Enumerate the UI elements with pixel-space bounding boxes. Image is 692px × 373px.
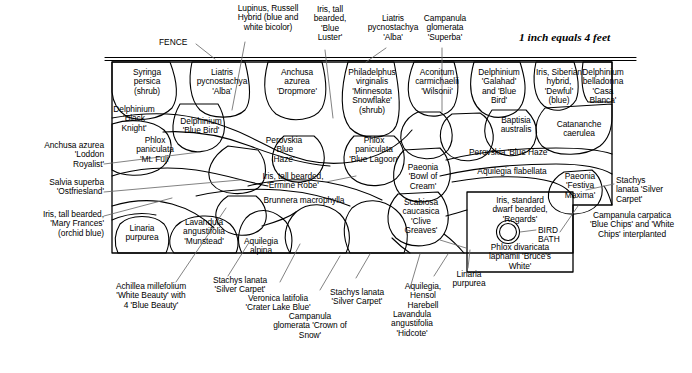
bed-label-perovskia-blue-haze-2: Perovskia 'Blue Haze'	[446, 148, 572, 157]
scale-note: 1 inch equals 4 feet	[519, 31, 610, 43]
bed-label-iris-ermine-robe: Iris, tall bearded, 'Ermine Robe'	[236, 172, 350, 191]
bird-bath-inner-circle	[500, 224, 517, 241]
callout-iris-blue-luster: Iris, tall bearded, 'Blue Luster'	[303, 5, 357, 43]
bed-label-phlox-blue-lagoon: Phlox paniculata 'Blue Lagoon'	[336, 136, 412, 164]
bed-label-liatris-alba: Liatris pycnostachya 'Alba'	[186, 68, 258, 96]
bed-label-catananche: Catananche caerulea	[543, 120, 615, 139]
leader-fence	[196, 44, 215, 59]
callout-lavandula-hidcote: Lavandula angustifolia 'Hidcote'	[376, 310, 448, 338]
bed-label-aquilegia-alpina: Aquilegia alpina	[232, 237, 290, 256]
cell-brunnera-lower1	[285, 205, 349, 253]
leader-liatris-top	[366, 48, 386, 62]
bed-label-philadelphus: Philadelphus virginalis 'Minnesota Snowf…	[336, 68, 408, 115]
bed-label-delphinium-casa-blanca: Delphinium belladonna 'Casa Blanca'	[572, 68, 634, 106]
callout-salvia-ostfriesland: Salvia superba 'Ostfriesland'	[0, 178, 104, 197]
bed-label-aconitum: Aconitum carmichaelii 'Wilsonii'	[404, 68, 470, 96]
callout-stachys-silver-carpet-right: Stachys lanata 'Silver Carpet'	[616, 176, 692, 204]
leader-campanula-crown	[320, 256, 340, 290]
callout-iris-mary-frances: Iris, tall bearded, 'Mary Frances' (orch…	[0, 210, 104, 238]
bed-label-anchusa-dropmore: Anchusa azurea 'Dropmore'	[262, 68, 332, 96]
bed-label-baptisia: Baptisia australis	[488, 116, 544, 135]
leader-bird-bath	[520, 230, 536, 232]
leader-stachys-b2	[356, 254, 370, 278]
callout-anchusa-loddon: Anchusa azurea 'Loddon Royalist'	[0, 141, 104, 169]
bed-label-delphinium-black-knight: Delphinium 'Black Knight'	[96, 105, 172, 133]
callout-campanula-crown: Campanula glomerata 'Crown of Snow'	[250, 312, 370, 340]
callout-achillea: Achillea millefolium 'White Beauty' with…	[95, 282, 207, 310]
bed-label-scabiosa: Scabiosa caucasica 'Clive Greaves'	[390, 198, 452, 236]
callout-linaria-bottom: Linaria purpurea	[437, 270, 501, 289]
bed-label-syringa: Syringa persica (shrub)	[116, 68, 178, 96]
callout-campanula-superba: Campanula glomerata 'Superba'	[414, 14, 476, 42]
bed-label-lavandula-munstead: Lavandula angustifolia 'Munstead'	[168, 218, 240, 246]
bed-label-delphinium-blue-bird: Delphinium 'Blue Bird'	[170, 117, 232, 136]
div-scabiosa-right2	[444, 234, 464, 253]
bed-label-perovskia-blue-haze: Perovskia 'Blue Haze'	[254, 136, 314, 164]
callout-campanula-carpatica: Campanula carpatica 'Blue Chips' and 'Wh…	[573, 211, 691, 239]
bed-label-phlox-mt-fuji: Phlox paniculata 'Mt. Fuji'	[124, 136, 186, 164]
bed-label-linaria-purpurea: Linaria purpurea	[113, 224, 171, 243]
bed-label-phlox-bruces-white: Phlox divaricata laphamii 'Bruce's White…	[470, 243, 570, 271]
bed-label-iris-regards: Iris, standard dwarf bearded, 'Regards'	[470, 196, 570, 224]
bed-label-delphinium-galahad: Delphinium 'Galahad' and 'Blue Bird'	[466, 68, 532, 106]
bed-label-brunnera-macrophylla: Brunnera macrophylla	[230, 196, 378, 205]
fence-label: FENCE	[159, 37, 187, 47]
bed-label-paeonia-bowl-of-cream: Paeonia 'Bowl of Cream'	[392, 163, 454, 191]
callout-stachys-b1: Stachys lanata 'Silver Carpet'	[196, 276, 284, 295]
garden-plan-figure: FENCE 1 inch equals 4 feet Lupinus, Russ…	[0, 0, 692, 373]
